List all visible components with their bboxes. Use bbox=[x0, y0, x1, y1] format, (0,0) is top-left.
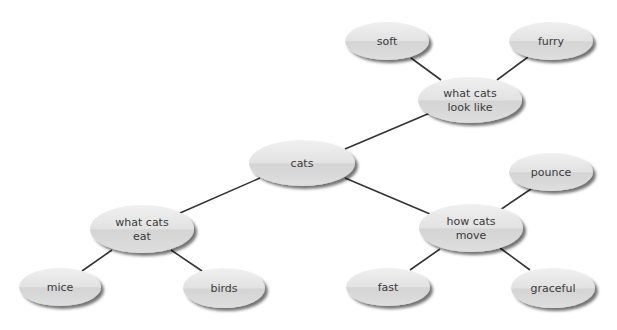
node-ellipse bbox=[418, 77, 522, 123]
node-eat: what catseat bbox=[90, 205, 194, 253]
node-label: what cats bbox=[115, 216, 169, 229]
node-fast: fast bbox=[346, 268, 430, 306]
edge-move-pounce bbox=[500, 189, 531, 210]
node-label: move bbox=[456, 229, 487, 242]
nodes-layer: catswhat catslook likesoftfurryhow catsm… bbox=[19, 22, 595, 308]
node-label: soft bbox=[377, 35, 398, 48]
node-move: how catsmove bbox=[419, 204, 523, 252]
node-birds: birds bbox=[183, 268, 265, 308]
node-label: eat bbox=[133, 230, 152, 243]
edge-eat-birds bbox=[171, 250, 202, 271]
edge-look-furry bbox=[497, 57, 528, 80]
edge-look-soft bbox=[411, 58, 441, 80]
edge-move-graceful bbox=[500, 248, 530, 270]
node-label: furry bbox=[538, 35, 565, 48]
node-label: pounce bbox=[531, 166, 572, 179]
node-ellipse bbox=[419, 204, 523, 252]
node-label: look like bbox=[447, 101, 492, 114]
node-label: birds bbox=[210, 282, 237, 295]
edge-move-fast bbox=[410, 249, 440, 270]
edge-cats-look bbox=[345, 113, 430, 149]
edge-cats-move bbox=[345, 178, 430, 214]
node-label: mice bbox=[47, 281, 74, 294]
edge-eat-mice bbox=[82, 250, 112, 271]
node-ellipse bbox=[90, 205, 194, 253]
node-label: what cats bbox=[443, 87, 497, 100]
node-pounce: pounce bbox=[509, 153, 593, 191]
node-mice: mice bbox=[19, 268, 101, 306]
node-cats: cats bbox=[249, 140, 355, 186]
node-label: cats bbox=[291, 157, 314, 170]
node-furry: furry bbox=[509, 22, 593, 60]
node-label: graceful bbox=[531, 282, 576, 295]
edge-cats-eat bbox=[180, 178, 260, 213]
node-look: what catslook like bbox=[418, 77, 522, 123]
node-graceful: graceful bbox=[511, 268, 595, 308]
node-label: fast bbox=[378, 281, 399, 294]
node-soft: soft bbox=[345, 22, 429, 60]
concept-map: catswhat catslook likesoftfurryhow catsm… bbox=[0, 0, 617, 330]
node-label: how cats bbox=[446, 215, 495, 228]
